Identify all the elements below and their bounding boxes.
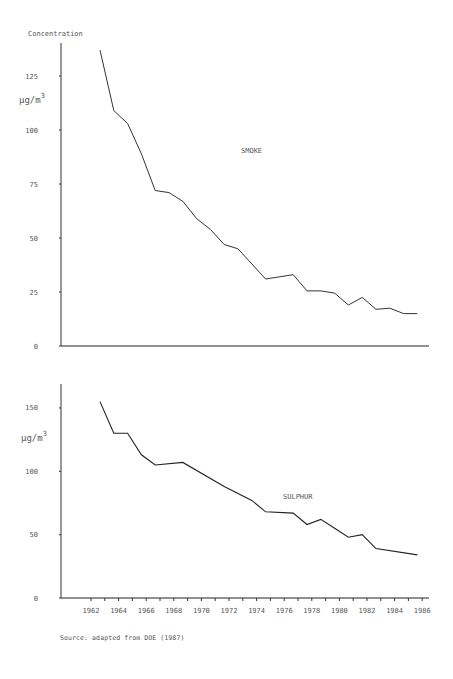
sulphur-chart: 050100150 196219641966196819701972197419… [21,384,431,615]
x-tick-label: 1964 [110,607,127,615]
y-tick-label: 75 [30,181,38,189]
x-tick-label: 1974 [248,607,265,615]
x-tick-label: 1980 [331,607,348,615]
source-note: Source: adapted from DOE (1987) [60,634,184,642]
x-tick-label: 1986 [414,607,431,615]
chart-canvas: Concentration 0255075100125 µg/m3 SMOKE … [0,0,453,679]
y-tick-label: 125 [25,73,38,81]
y-tick-label: 100 [25,468,38,476]
smoke-data-line [100,50,417,314]
x-tick-label: 1972 [221,607,238,615]
sulphur-data-line [100,402,417,555]
y-axis-header: Concentration [28,30,83,38]
x-tick-label: 1962 [83,607,100,615]
x-tick-label: 1966 [138,607,155,615]
x-tick-label: 1976 [276,607,293,615]
y-tick-label: 0 [34,343,38,351]
smoke-chart: Concentration 0255075100125 µg/m3 SMOKE [19,30,429,351]
y-tick-label: 50 [30,531,38,539]
sulphur-y-unit-label: µg/m3 [21,430,47,443]
x-tick-label: 1970 [193,607,210,615]
x-tick-label: 1984 [386,607,403,615]
sulphur-x-ticks: 1962196419661968197019721974197619781980… [83,598,431,615]
y-tick-label: 150 [25,404,38,412]
x-tick-label: 1982 [359,607,376,615]
y-tick-label: 0 [34,595,38,603]
smoke-y-ticks: 0255075100125 [25,73,61,351]
x-tick-label: 1968 [165,607,182,615]
smoke-y-unit-label: µg/m3 [19,92,45,105]
y-tick-label: 100 [25,127,38,135]
figure: Concentration 0255075100125 µg/m3 SMOKE … [0,0,453,679]
x-tick-label: 1978 [303,607,320,615]
smoke-series-label: SMOKE [241,147,262,155]
y-tick-label: 50 [30,235,38,243]
sulphur-series-label: SULPHUR [283,493,313,501]
y-tick-label: 25 [30,289,38,297]
